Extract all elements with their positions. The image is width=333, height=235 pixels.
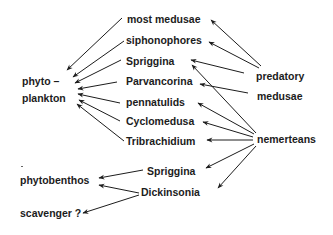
arrow-predatory-to-spriggina [191,60,244,73]
node-nemerteans: nemerteans [257,133,316,145]
node-scavenger: scavenger ? [20,207,81,219]
node-spriggina: Spriggina [126,55,174,67]
node-spriggina-benthic: Spriggina [147,165,195,177]
arrow-spriggina-to-phytobenthos [99,170,143,178]
node-cyclomedusa: Cyclomedusa [126,115,194,127]
node-predatory-medusae-line1: predatory [256,70,304,82]
arrow-dickinsonia-to-phytobenthos [99,185,139,193]
node-pennatulids: pennatulids [126,96,185,108]
arrow-nemerteans-to-spriggina [192,65,256,133]
arrow-spriggina-to-phytoplankton [75,60,121,83]
node-most-medusae: most medusae [127,13,201,25]
arrow-dickinsonia-to-scavenger [83,195,139,213]
arrow-parvancorina-to-phytoplankton [78,82,117,89]
arrow-predatory-to-most-medusae [211,20,261,66]
node-dickinsonia: Dickinsonia [141,186,200,198]
node-phytoplankton-line1: phyto – [22,75,59,87]
node-phytoplankton-line2: plankton [22,92,66,104]
arrow-predatory-to-parvancorina [200,84,248,93]
arrow-tribrachidium-to-phytoplankton [77,104,124,141]
node-siphonophores: siphonophores [126,34,202,46]
food-web-diagram: most medusae siphonophores Spriggina Par… [0,0,333,235]
node-predatory-medusae-line2: medusae [257,90,303,102]
node-tribrachidium: Tribrachidium [126,135,195,147]
arrow-pennatulids-to-phytoplankton [78,94,120,103]
node-parvancorina: Parvancorina [126,75,193,87]
print-speck [21,166,23,167]
node-phytobenthos: phytobenthos [20,174,89,186]
arrow-predatory-to-siphonophores [209,42,259,68]
